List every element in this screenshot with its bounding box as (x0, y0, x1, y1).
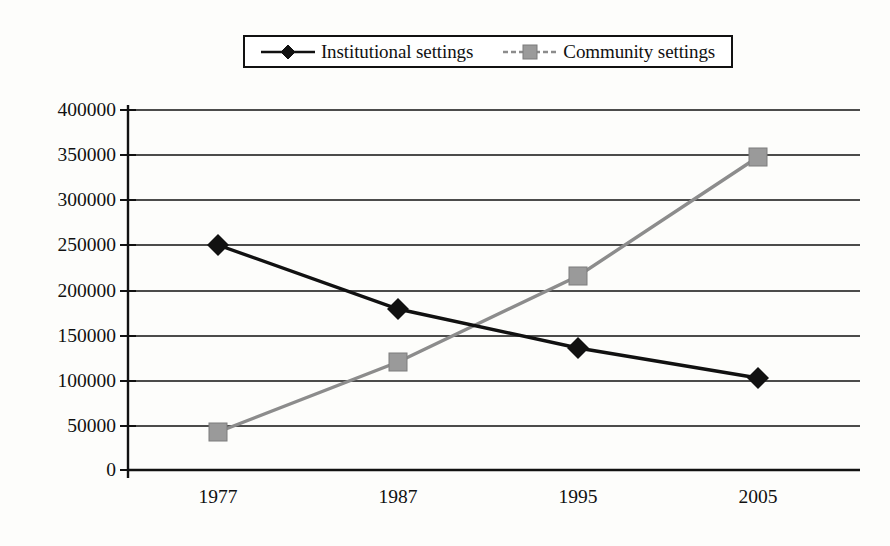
y-tick-label-350000: 350000 (12, 145, 116, 165)
data-point-community-1995 (569, 267, 587, 285)
y-tick-label-250000: 250000 (12, 235, 116, 255)
data-point-community-1977 (209, 423, 227, 441)
data-point-institutional-1987 (387, 298, 409, 320)
series-line-community (218, 157, 758, 432)
x-tick-label-1987: 1987 (338, 487, 458, 507)
data-point-community-2005 (749, 148, 767, 166)
x-tick-label-2005: 2005 (698, 487, 818, 507)
series-line-institutional (218, 245, 758, 378)
y-tick-label-300000: 300000 (12, 190, 116, 210)
data-point-institutional-1995 (567, 337, 589, 359)
plot-area (0, 0, 890, 546)
y-tick-label-50000: 50000 (12, 416, 116, 436)
line-chart: Institutional settings Community setting… (0, 0, 890, 546)
x-tick-label-1977: 1977 (158, 487, 278, 507)
y-tick-label-150000: 150000 (12, 326, 116, 346)
data-point-community-1987 (389, 353, 407, 371)
data-point-institutional-1977 (207, 234, 229, 256)
series-institutional-settings (207, 234, 769, 389)
y-tick-label-100000: 100000 (12, 371, 116, 391)
y-tick-label-200000: 200000 (12, 281, 116, 301)
data-point-institutional-2005 (747, 367, 769, 389)
y-tick-label-0: 0 (12, 460, 116, 480)
y-tick-label-400000: 400000 (12, 100, 116, 120)
series-community-settings (209, 148, 767, 441)
x-tick-label-1995: 1995 (518, 487, 638, 507)
